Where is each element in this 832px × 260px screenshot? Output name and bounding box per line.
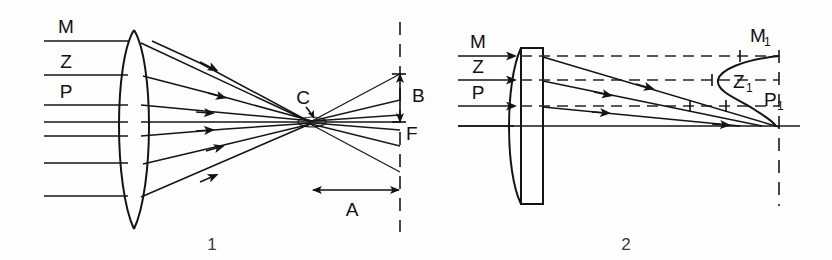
label-ray-Z-1: Z <box>60 51 72 72</box>
refracted-ray-zonal-lower <box>143 124 311 164</box>
p2-refracted-ray-marginal <box>543 57 779 127</box>
panel-2-refracted-rays <box>543 57 779 127</box>
label-ray-M-2: M <box>470 31 486 52</box>
label-ray-P-2: P <box>472 82 485 103</box>
refracted-ray-paraxial-upper <box>141 105 313 121</box>
panel-1-incoming-rays <box>44 41 128 196</box>
optics-ray-diagram: C B F A M Z P 1 <box>0 0 832 260</box>
caustic-label-group: C <box>296 87 314 118</box>
ray-arrow-paraxial-upper <box>196 112 210 113</box>
label-focus-F: F <box>406 123 418 144</box>
ray-arrow-paraxial-lower <box>196 130 210 131</box>
panel-2-group: M Z P M 1 Z 1 P 1 2 <box>458 25 800 254</box>
figure-number-2: 2 <box>621 235 630 254</box>
label-image-Z1-group: Z 1 <box>733 71 753 95</box>
label-blur-B: B <box>412 85 425 106</box>
panel-1-group: C B F A M Z P 1 <box>44 16 425 254</box>
diverging-ray-zonal-lower <box>311 124 400 146</box>
figure-number-1: 1 <box>207 235 216 254</box>
panel-1-diverging-rays <box>310 74 400 172</box>
label-caustic-C: C <box>296 87 310 108</box>
figure-sheet: C B F A M Z P 1 <box>0 0 832 260</box>
label-image-Z1: Z <box>733 71 745 92</box>
label-image-P1-group: P 1 <box>764 89 784 113</box>
refracted-ray-marginal-lower <box>141 124 310 197</box>
diverging-ray-paraxial-lower <box>313 123 400 130</box>
label-distance-A: A <box>346 199 359 220</box>
ray-arrow-zonal-upper <box>208 93 222 97</box>
label-image-Z1-sub: 1 <box>746 81 753 95</box>
panel-2-incoming-rays <box>458 56 514 126</box>
ray-arrow-marginal-upper <box>200 62 214 69</box>
label-image-M1-group: M 1 <box>750 25 771 49</box>
lens-biconvex <box>119 30 149 229</box>
label-image-P1-sub: 1 <box>777 99 784 113</box>
label-image-M1-sub: 1 <box>764 35 771 49</box>
diverging-ray-marginal-lower <box>310 124 400 172</box>
p2-ray-arrow-axis <box>712 124 726 125</box>
lens-surface-left <box>119 30 134 229</box>
panel-1-refracted-rays <box>141 41 400 197</box>
p2-refracted-ray-zonal <box>543 81 762 126</box>
caustic-pointer-arrow <box>306 107 314 118</box>
refracted-ray-marginal-upper-guide <box>152 41 310 122</box>
ray-arrow-marginal-lower <box>200 176 214 182</box>
label-ray-P-1: P <box>60 81 73 102</box>
lens-surface-right <box>134 30 149 229</box>
label-ray-Z-2: Z <box>472 56 484 77</box>
label-ray-M-1: M <box>58 16 74 37</box>
p2-ray-arrow-paraxial <box>592 112 606 113</box>
distance-A-dimension: A <box>313 190 399 220</box>
diverging-ray-marginal-upper <box>310 74 400 122</box>
label-image-P1: P <box>764 89 777 110</box>
p2-refracted-ray-paraxial <box>543 107 740 126</box>
